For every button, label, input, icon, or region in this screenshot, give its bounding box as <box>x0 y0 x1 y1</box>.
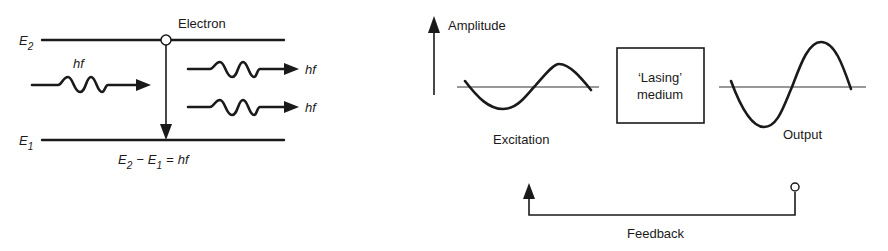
amplitude-label: Amplitude <box>448 18 506 33</box>
output-label: Output <box>783 127 822 142</box>
electron-node-icon <box>161 35 171 45</box>
arrow-right-icon <box>284 63 299 75</box>
lasing-medium-box: ‘Lasing’ medium <box>617 48 704 123</box>
incoming-photon-wave <box>32 77 140 92</box>
upper-level-label: E2 <box>19 33 34 52</box>
feedback-tap-node-icon <box>791 183 799 191</box>
energy-equation: E2−E1=hf <box>118 152 190 171</box>
feedback-label: Feedback <box>627 226 685 241</box>
oscillator-diagram: Amplitude Excitation ‘Lasing’ medium Out… <box>428 16 866 241</box>
emitted-photon-wave <box>188 100 287 115</box>
transition-arrowhead-icon <box>160 124 172 140</box>
emitted-photon-label: hf <box>305 62 317 77</box>
arrow-right-icon <box>284 101 299 113</box>
feedback-loop: Feedback <box>523 183 799 241</box>
laser-principle-diagram: E2 Electron E1 hf hf <box>0 0 888 251</box>
excitation-waveform: Excitation <box>457 64 599 147</box>
emitted-photon-label: hf <box>305 100 317 115</box>
excitation-label: Excitation <box>493 132 549 147</box>
output-sine-wave <box>731 42 851 127</box>
emitted-photon-1: hf <box>188 62 317 77</box>
output-waveform: Output <box>719 42 866 142</box>
incoming-photon-label: hf <box>73 56 85 71</box>
incoming-photon: hf <box>32 56 151 92</box>
emitted-photon-2: hf <box>188 100 317 115</box>
lasing-medium-line1: ‘Lasing’ <box>638 70 682 85</box>
emitted-photon-wave <box>188 62 287 77</box>
electron-label: Electron <box>178 16 226 31</box>
feedback-path <box>529 192 795 215</box>
lasing-medium-frame <box>617 48 704 123</box>
arrow-up-icon <box>428 16 440 33</box>
arrow-right-icon <box>136 79 151 91</box>
lower-level-label: E1 <box>19 133 33 152</box>
energy-level-diagram: E2 Electron E1 hf hf <box>19 16 317 171</box>
arrow-up-icon <box>523 183 535 199</box>
lasing-medium-line2: medium <box>637 87 683 102</box>
